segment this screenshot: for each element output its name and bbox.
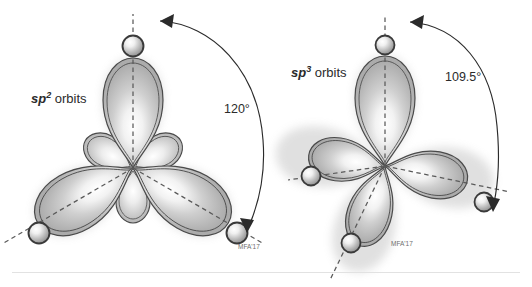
sp2-arrowhead-top — [160, 14, 174, 28]
sp2-angle-label: 120° — [224, 102, 250, 116]
figure-canvas: sp2 orbits 120° MFA'17 — [0, 0, 532, 287]
sp2-atom-top — [123, 36, 144, 57]
sp3-atom-lower-left — [342, 234, 361, 253]
bottom-divider — [12, 272, 520, 273]
sp3-label-suffix: orbits — [311, 65, 347, 80]
sp3-watermark: MFA'17 — [391, 240, 413, 247]
sp3-atom-top — [376, 36, 395, 55]
sp3-lobes — [306, 56, 472, 252]
sp3-atom-left — [302, 167, 321, 186]
sp3-hybrid-orbital-diagram: sp3 orbits 109.5° MFA'17 — [272, 14, 510, 280]
sp2-atom-lower-left — [29, 223, 50, 244]
sp3-arrowhead-top — [410, 15, 424, 29]
sp3-label-prefix: sp — [291, 65, 306, 80]
sp3-label: sp3 orbits — [291, 64, 347, 80]
sp2-watermark: MFA'17 — [238, 243, 260, 250]
sp2-label-prefix: sp — [31, 91, 46, 106]
sp3-angle-label: 109.5° — [445, 70, 481, 84]
sp2-label: sp2 orbits — [31, 90, 87, 106]
sp2-label-suffix: orbits — [51, 91, 87, 106]
sp2-hybrid-orbital-diagram: sp2 orbits 120° MFA'17 — [2, 14, 264, 250]
orbital-figure-svg: sp2 orbits 120° MFA'17 — [0, 0, 532, 287]
